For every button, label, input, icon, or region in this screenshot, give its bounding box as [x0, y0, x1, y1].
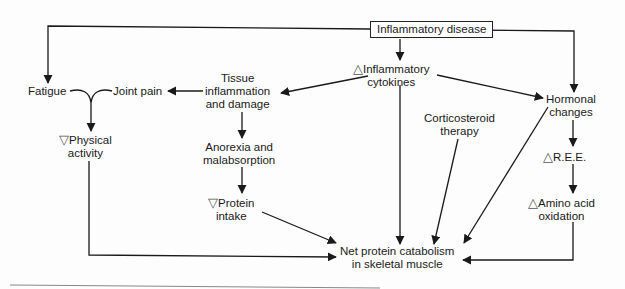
decrease-triangle-icon: ▽ [208, 195, 218, 210]
node-hormonal-changes: Hormonal changes [546, 93, 596, 119]
node-tissue-inflammation: Tissue inflammation and damage [205, 72, 270, 111]
edge-fatigue-joint-merge [70, 90, 112, 103]
node-net-protein-catabolism: Net protein catabolism in skeletal muscl… [340, 245, 454, 271]
node-label: Inflammatory disease [377, 23, 486, 35]
edge-protein-net [262, 212, 336, 243]
edge-disease-hormonal [463, 30, 574, 92]
node-ree: △R.E.E. [543, 150, 586, 164]
node-joint-pain: Joint pain [113, 85, 162, 98]
edge-amino-net [463, 222, 573, 260]
node-fatigue: Fatigue [28, 85, 66, 98]
bottom-rule [10, 285, 380, 288]
edge-corticosteroid-net [434, 139, 458, 244]
increase-triangle-icon: △ [543, 149, 553, 164]
diagram-canvas: Inflammatory disease △Inflammatory cytok… [0, 0, 625, 289]
decrease-triangle-icon: ▽ [59, 132, 69, 147]
edge-cytokines-hormonal [437, 75, 543, 98]
node-physical-activity: ▽Physical activity [59, 133, 112, 160]
node-inflammatory-cytokines: △Inflammatory cytokines [353, 62, 429, 89]
node-inflammatory-disease: Inflammatory disease [370, 21, 493, 38]
node-anorexia: Anorexia and malabsorption [203, 141, 275, 167]
increase-triangle-icon: △ [353, 61, 363, 76]
node-amino-acid: △Amino acid oxidation [528, 196, 595, 223]
node-corticosteroid: Corticosteroid therapy [424, 112, 495, 138]
node-protein-intake: ▽Protein intake [208, 196, 254, 223]
increase-triangle-icon: △ [528, 195, 538, 210]
